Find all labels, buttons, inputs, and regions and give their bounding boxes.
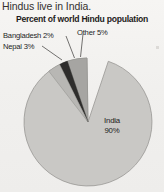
pie-label-nepal: Nepal 3% xyxy=(3,42,34,51)
pie-label-india: India 90% xyxy=(94,116,130,135)
pie-label-india-value: 90% xyxy=(94,126,130,136)
leader-line-nepal xyxy=(42,46,62,60)
pie-label-other: Other 5% xyxy=(77,28,107,37)
pie-chart-figure: Hindus live in India. Percent of world H… xyxy=(0,0,164,192)
scan-artifact xyxy=(156,46,159,49)
leader-line-bangladesh xyxy=(66,36,75,58)
leader-line-other xyxy=(81,34,84,57)
pie-label-bangladesh: Bangladesh 2% xyxy=(3,31,54,40)
pie-label-india-name: India xyxy=(94,116,130,126)
